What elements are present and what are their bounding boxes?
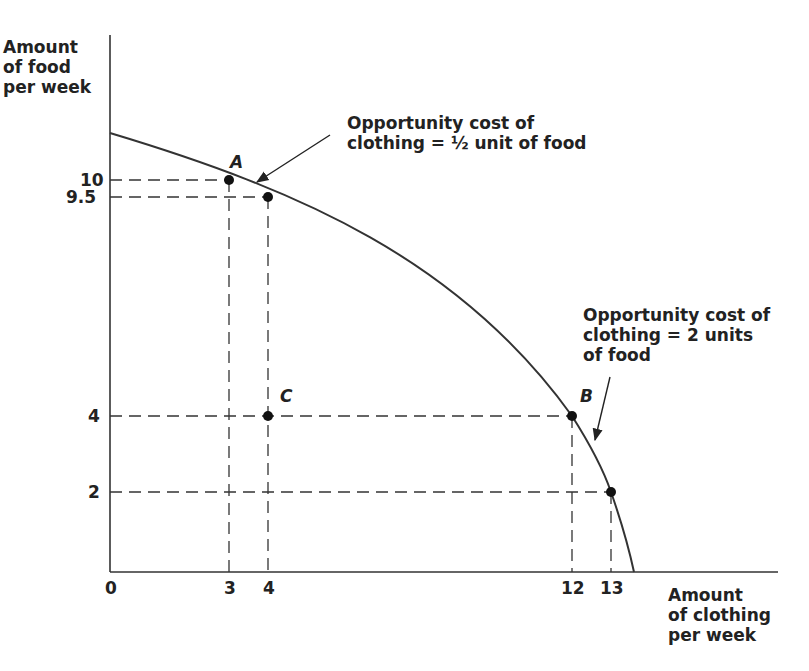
y-tick-4: 4 — [88, 406, 100, 426]
arrow-right-annotation — [595, 377, 610, 440]
x-tick-3: 3 — [224, 578, 236, 598]
point-13-2 — [606, 487, 616, 497]
point-b-label: B — [580, 386, 593, 406]
point-b — [567, 411, 577, 421]
point-a — [224, 175, 234, 185]
x-tick-0: 0 — [105, 578, 117, 598]
x-tick-13: 13 — [600, 578, 624, 598]
ppf-curve — [110, 133, 634, 572]
annotation-right: Opportunity cost of clothing = 2 units o… — [583, 305, 770, 365]
data-points — [224, 175, 616, 497]
y-tick-2: 2 — [88, 482, 100, 502]
annotation-top: Opportunity cost of clothing = ½ unit of… — [347, 113, 587, 153]
arrow-top-annotation — [257, 135, 330, 182]
point-c — [263, 411, 273, 421]
y-axis-label: Amount of food per week — [3, 37, 91, 97]
x-tick-4: 4 — [263, 578, 275, 598]
point-a-label: A — [230, 152, 243, 172]
x-axis-label: Amount of clothing per week — [668, 585, 771, 645]
x-tick-12: 12 — [561, 578, 585, 598]
point-9-5 — [263, 192, 273, 202]
guide-lines — [110, 180, 611, 572]
y-tick-9-5: 9.5 — [66, 187, 96, 207]
point-c-label: C — [280, 386, 292, 406]
